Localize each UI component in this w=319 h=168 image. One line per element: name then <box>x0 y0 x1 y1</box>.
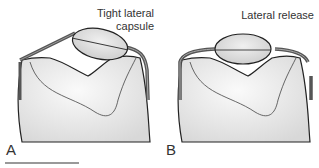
label-tight-lateral-capsule: Tight lateral capsule <box>97 7 154 33</box>
scale-bar <box>5 162 79 164</box>
panel-letter-a: A <box>6 141 16 158</box>
panel-letter-b: B <box>166 141 176 158</box>
knee-patella-diagram-b <box>160 0 319 168</box>
label-line2: capsule <box>97 20 154 33</box>
label-line1: Lateral release <box>241 9 314 22</box>
panel-a-tight-lateral-capsule: Tight lateral capsule A <box>0 0 160 168</box>
label-line1: Tight lateral <box>97 7 154 20</box>
patella-centered <box>215 34 271 64</box>
panel-b-lateral-release: Lateral release B <box>160 0 319 168</box>
label-lateral-release: Lateral release <box>241 9 314 22</box>
